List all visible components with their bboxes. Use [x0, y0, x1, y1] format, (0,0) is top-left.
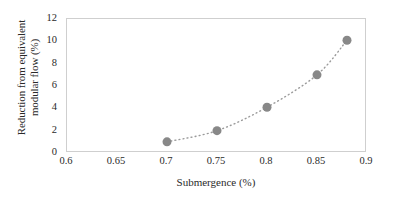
y-tick-label: 4	[0, 102, 62, 112]
x-tick-label: 0.8	[244, 155, 288, 167]
data-point-marker	[213, 126, 222, 135]
trendline-dotted	[167, 40, 347, 142]
x-tick-label: 0.85	[294, 155, 338, 167]
x-tick-label: 0.9	[344, 155, 388, 167]
x-tick-label: 0.65	[94, 155, 138, 167]
y-tick-label: 8	[0, 58, 62, 68]
y-tick-label: 12	[0, 13, 62, 23]
plot-area	[66, 18, 366, 152]
data-point-marker	[343, 36, 352, 45]
data-point-marker	[163, 137, 172, 146]
x-tick-label: 0.75	[194, 155, 238, 167]
data-point-marker	[263, 103, 272, 112]
chart-figure: Reduction from equivalent modular flow (…	[0, 0, 393, 199]
y-tick-label: 2	[0, 125, 62, 135]
y-tick-label: 6	[0, 80, 62, 90]
x-axis-title: Submergence (%)	[66, 176, 366, 189]
x-tick-label: 0.7	[144, 155, 188, 167]
plot-svg	[67, 19, 367, 153]
x-tick-label: 0.6	[44, 155, 88, 167]
y-tick-label: 10	[0, 35, 62, 45]
data-point-markers	[163, 36, 352, 147]
x-axis-tick-labels: 0.60.650.70.750.80.850.9	[0, 155, 393, 171]
data-point-marker	[313, 70, 322, 79]
